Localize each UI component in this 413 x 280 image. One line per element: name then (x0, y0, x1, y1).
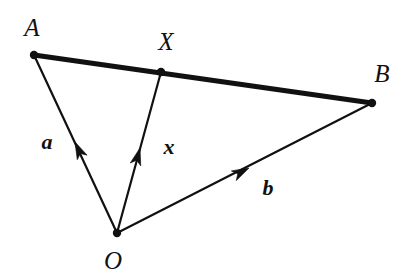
diagram-canvas (0, 0, 413, 280)
point-dot-O (113, 229, 121, 237)
vector-arrowhead-a (70, 140, 87, 160)
point-dot-A (30, 51, 38, 59)
point-label-O: O (104, 248, 122, 273)
vector-layer (34, 55, 372, 233)
point-label-X: X (158, 29, 173, 54)
point-label-B: B (374, 61, 389, 86)
vector-shaft-b (117, 103, 372, 233)
segment-layer (34, 55, 372, 103)
vector-label-b: b (263, 177, 274, 199)
point-dot-X (157, 68, 165, 76)
vector-arrowhead-x (130, 147, 145, 166)
segment-AB (34, 55, 372, 103)
vector-label-x: x (164, 136, 175, 158)
point-label-A: A (24, 15, 39, 40)
vector-diagram-figure: A X B O a x b (0, 0, 413, 280)
point-dot-B (368, 99, 376, 107)
vector-label-a: a (42, 131, 53, 153)
